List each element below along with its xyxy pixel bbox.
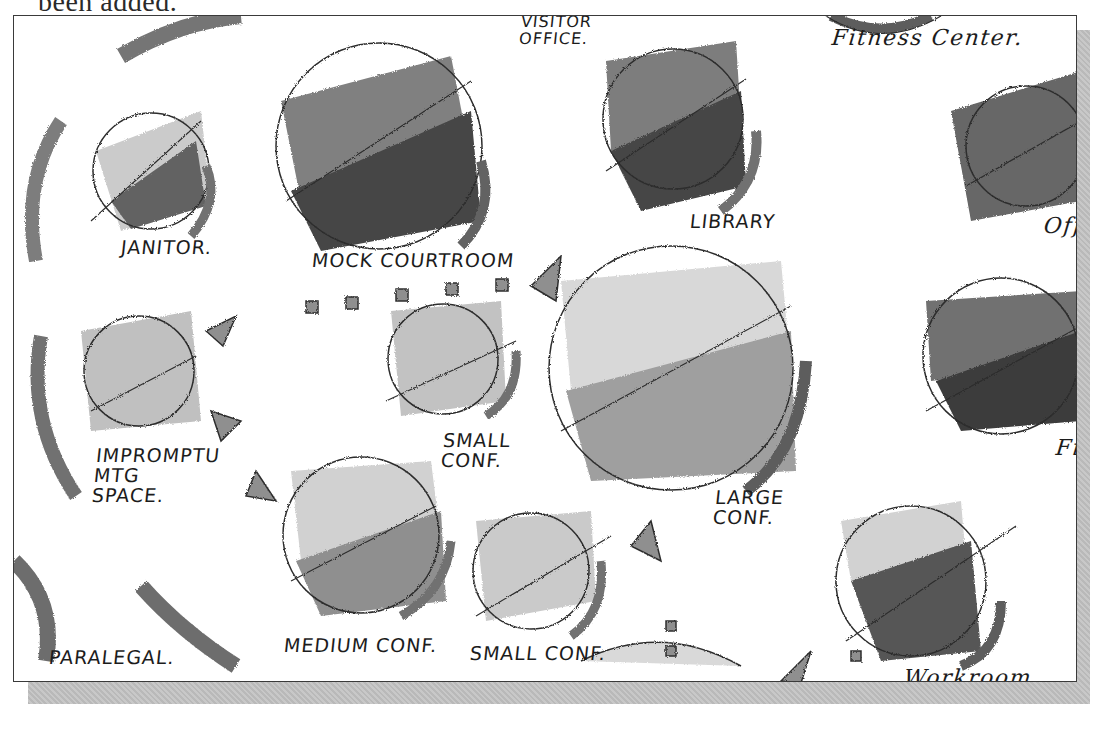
marker-arc [121, 16, 241, 56]
room-label-paralegal: PARALEGAL. [48, 648, 176, 668]
bubble-workroom [836, 501, 1016, 666]
bubble-file [923, 278, 1077, 434]
room-label-library: LIBRARY [689, 212, 776, 232]
room-label-small-conf-2: SMALL CONF. [469, 644, 607, 664]
bubble-diagram-frame: JANITOR. MOCK COURTROOM VISITOR OFFICE. … [13, 15, 1077, 682]
room-label-janitor: JANITOR. [120, 238, 213, 258]
room-label-medium-conf: MEDIUM CONF. [283, 636, 438, 656]
bubble-library [603, 41, 757, 211]
bubble-large-conf [549, 246, 806, 491]
room-label-office: Off [1043, 214, 1077, 237]
room-label-fitness-center: Fitness Center. [831, 26, 1025, 49]
bubble-office [951, 71, 1077, 221]
bubble-small-conf-2 [473, 511, 611, 636]
room-label-visitor-office: VISITOR OFFICE. [518, 15, 602, 48]
room-label-file: Fil [1055, 436, 1077, 459]
room-label-impromptu-mtg-space: IMPROMPTU MTG SPACE. [91, 446, 217, 506]
room-label-mock-courtroom: MOCK COURTROOM [311, 251, 515, 271]
bubble-small-conf-1 [386, 301, 516, 416]
room-label-large-conf: LARGE CONF. [712, 488, 796, 528]
bubble-mock-courtroom [276, 43, 486, 251]
bubble-diagram-sketch [14, 16, 1077, 682]
room-label-workroom: Workroom. [903, 666, 1042, 682]
bubble-janitor [91, 111, 211, 236]
bubble-medium-conf [283, 457, 451, 616]
room-label-small-conf-1: SMALL CONF. [440, 431, 514, 471]
